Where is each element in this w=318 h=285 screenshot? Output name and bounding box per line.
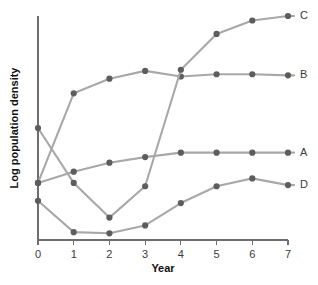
data-point: [106, 230, 112, 236]
series-label-a: A: [300, 146, 308, 158]
data-point: [249, 150, 255, 156]
data-point: [35, 125, 41, 131]
data-point: [213, 31, 219, 37]
data-point: [71, 90, 77, 96]
x-axis-tick-label: 2: [106, 248, 112, 260]
data-point: [285, 13, 291, 19]
data-point: [71, 229, 77, 235]
data-point: [71, 180, 77, 186]
data-point: [142, 222, 148, 228]
x-axis-tick-label: 5: [214, 248, 220, 260]
chart-container: 01234567 ABCD Year Log population densit…: [0, 0, 318, 285]
data-point: [106, 160, 112, 166]
x-axis-tick-label: 6: [249, 248, 255, 260]
data-point: [106, 76, 112, 82]
data-point: [249, 175, 255, 181]
line-chart: 01234567 ABCD Year Log population densit…: [0, 0, 318, 285]
x-axis-tick-label: 3: [142, 248, 148, 260]
data-point: [285, 72, 291, 78]
data-point: [142, 68, 148, 74]
x-axis-tick-label: 4: [178, 248, 184, 260]
data-point: [178, 67, 184, 73]
data-point: [142, 183, 148, 189]
data-point: [178, 150, 184, 156]
data-point: [213, 183, 219, 189]
series-label-c: C: [300, 9, 308, 21]
data-point: [213, 150, 219, 156]
data-point: [142, 154, 148, 160]
data-point: [35, 180, 41, 186]
data-point: [213, 71, 219, 77]
data-point: [249, 71, 255, 77]
x-axis-tick-label: 7: [285, 248, 291, 260]
series-label-d: D: [300, 178, 308, 190]
data-point: [71, 169, 77, 175]
data-point: [35, 198, 41, 204]
y-axis-title: Log population density: [8, 67, 20, 189]
series-label-b: B: [300, 68, 307, 80]
data-point: [285, 182, 291, 188]
x-axis-tick-label: 0: [35, 248, 41, 260]
data-point: [106, 215, 112, 221]
data-point: [178, 200, 184, 206]
x-axis-title: Year: [151, 262, 175, 274]
x-axis-tick-label: 1: [71, 248, 77, 260]
data-point: [249, 17, 255, 23]
data-point: [285, 150, 291, 156]
